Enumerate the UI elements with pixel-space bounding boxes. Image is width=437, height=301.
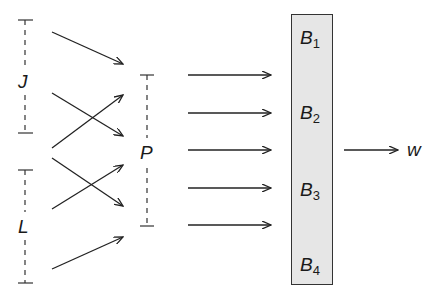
- b4-label: B4: [300, 255, 320, 277]
- b2-sub: 2: [313, 111, 320, 126]
- b3-base: B: [300, 179, 313, 200]
- b1-label: B1: [300, 28, 320, 50]
- b3-label: B3: [300, 180, 320, 202]
- output-label-w: w: [407, 140, 421, 159]
- group-label-l: L: [18, 217, 29, 236]
- b4-base: B: [300, 254, 313, 275]
- b-block: [291, 14, 333, 285]
- b2-label: B2: [300, 103, 320, 125]
- parallel-arrows: [188, 75, 271, 225]
- group-label-j: J: [18, 72, 28, 91]
- b1-base: B: [300, 27, 313, 48]
- b3-sub: 3: [313, 188, 320, 203]
- group-label-p: P: [140, 143, 153, 162]
- b1-sub: 1: [313, 36, 320, 51]
- b2-base: B: [300, 102, 313, 123]
- input-arrows: [52, 32, 123, 269]
- diagram-canvas: [0, 0, 437, 301]
- b4-sub: 4: [313, 263, 320, 278]
